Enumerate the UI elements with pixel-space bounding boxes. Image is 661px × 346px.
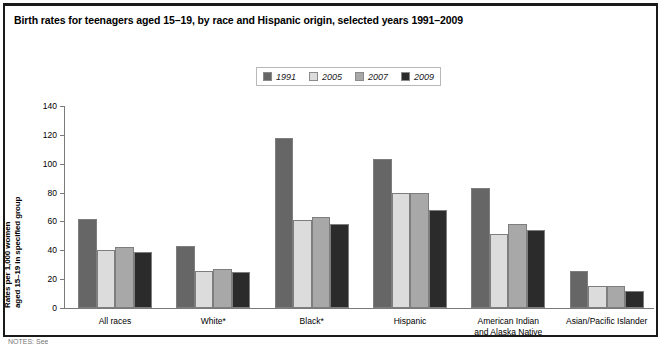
legend-label-2007: 2007 [368,72,388,82]
bar-group [78,106,152,308]
bar [78,219,97,308]
bar-group [373,106,447,308]
bar [232,272,251,308]
y-axis-tick-label: 140 [43,101,57,111]
chart-legend: 1991200520072009 [256,67,441,86]
y-axis-tick-label: 60 [48,216,57,226]
bar [527,230,546,308]
y-axis-tick-label: 80 [48,188,57,198]
y-axis-tick [60,106,64,107]
bar [570,271,589,309]
bar [312,217,331,308]
legend-swatch-2005 [309,72,318,81]
bar-group [570,106,644,308]
legend-item-2007: 2007 [355,72,388,82]
y-axis-tick-label: 100 [43,159,57,169]
y-axis-tick [60,193,64,194]
y-axis-tick-label: 40 [48,245,57,255]
legend-label-2009: 2009 [414,72,434,82]
bar [607,286,626,308]
legend-swatch-1991 [263,72,272,81]
chart-footnote: NOTES: See [8,338,48,345]
bar [625,291,644,308]
y-axis-tick [60,279,64,280]
y-axis-tick-label: 20 [48,274,57,284]
y-axis-tick [60,221,64,222]
y-axis-tick-label: 0 [52,303,57,313]
bar [195,271,214,309]
x-axis-label: Asian/Pacific Islander [537,316,661,327]
bar [392,193,411,308]
bar [588,286,607,308]
bar [293,220,312,308]
y-axis-tick [60,250,64,251]
bar [97,250,116,308]
frame-border-right [656,3,658,337]
legend-label-2005: 2005 [322,72,342,82]
y-axis-tick-label: 120 [43,130,57,140]
bar [176,246,195,308]
bar [275,138,294,308]
frame-border-top [3,3,658,6]
y-axis-tick [60,135,64,136]
bar [373,159,392,308]
legend-item-1991: 1991 [263,72,296,82]
x-axis-line [64,308,654,309]
bar [115,247,134,308]
y-axis-tick [60,308,64,309]
bar-group [471,106,545,308]
bar-group [176,106,250,308]
x-axis-label-line: and Alaska Native [438,327,578,338]
plot-area: 140120100806040200 [64,106,654,308]
bar-group [275,106,349,308]
legend-swatch-2007 [355,72,364,81]
y-axis-title-line-2: aged 15–19 in specified group [13,197,22,308]
bar [410,193,429,308]
bar [508,224,527,308]
bar [330,224,349,308]
legend-item-2005: 2005 [309,72,342,82]
bar [429,210,448,308]
y-axis-tick [60,164,64,165]
legend-item-2009: 2009 [401,72,434,82]
bar [134,252,153,308]
bar [490,234,509,308]
y-axis-title: Rates per 1,000 women aged 15–19 in spec… [10,106,34,308]
x-axis-label-line: Asian/Pacific Islander [537,316,661,327]
legend-label-1991: 1991 [276,72,296,82]
bar [213,269,232,308]
chart-figure: Birth rates for teenagers aged 15–19, by… [0,0,661,346]
y-axis-title-line-1: Rates per 1,000 women [3,222,12,308]
bar [471,188,490,308]
chart-title: Birth rates for teenagers aged 15–19, by… [14,14,634,26]
y-axis-line [64,106,65,308]
legend-swatch-2009 [401,72,410,81]
